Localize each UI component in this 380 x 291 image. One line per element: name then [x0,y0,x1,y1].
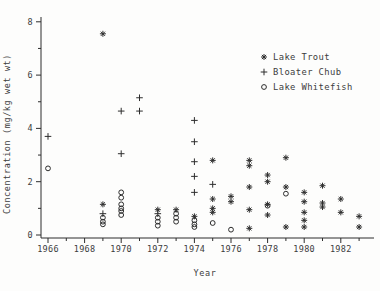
data-point-lake-trout [246,207,252,213]
data-point-lake-trout [356,213,362,219]
x-axis-tick-label: 1970 [110,244,132,254]
data-point-lake-trout [283,155,289,161]
data-point-bloater-chub [118,108,125,115]
data-point-lake-whitefish [119,195,124,200]
data-point-lake-trout [320,183,326,189]
data-point-lake-trout [338,196,344,202]
x-axis-tick-label: 1982 [330,244,352,254]
y-axis-tick-label: 8 [28,17,33,27]
data-point-lake-trout [301,189,307,195]
data-point-lake-trout [265,172,271,178]
data-point-lake-trout [228,199,234,205]
legend-label: Lake Whitefish [273,82,353,92]
y-axis-tick-label: 6 [28,70,33,80]
data-point-lake-trout [100,201,106,207]
x-axis-tick-label: 1966 [37,244,59,254]
data-point-lake-trout [283,224,289,230]
legend-label: Bloater Chub [273,67,341,77]
data-point-lake-whitefish [229,227,234,232]
data-point-lake-trout [301,199,307,205]
legend-label: Lake Trout [273,52,330,62]
asterisk-legend-icon [261,54,267,60]
data-point-lake-trout [265,212,271,218]
x-axis-tick-label: 1968 [74,244,96,254]
data-point-lake-trout [301,209,307,215]
data-point-lake-trout [301,217,307,223]
legend-entry: Bloater Chub [261,67,342,77]
chart-canvas: 1966196819701972197419761978198019820246… [0,0,380,291]
y-axis-tick-label: 4 [28,123,33,133]
scatter-plot-figure: 1966196819701972197419761978198019820246… [0,0,380,291]
data-point-lake-trout [320,204,326,210]
x-axis-tick-label: 1978 [257,244,279,254]
data-point-lake-trout [301,224,307,230]
data-point-lake-whitefish [46,166,51,171]
data-point-lake-trout [283,184,289,190]
x-axis-tick-label: 1974 [184,244,206,254]
legend: Lake TroutBloater ChubLake Whitefish [261,52,353,92]
data-point-bloater-chub [136,108,143,115]
y-axis-tick-label: 0 [28,230,33,240]
x-axis-tick-label: 1976 [220,244,242,254]
data-point-lake-trout [210,196,216,202]
y-axis-title: Concentration (mg/kg wet wt) [2,54,12,214]
legend-entry: Lake Whitefish [262,82,353,92]
x-axis-title: Year [194,268,217,278]
legend-entry: Lake Trout [261,52,330,62]
data-point-lake-trout [246,163,252,169]
data-point-lake-trout [246,225,252,231]
data-point-bloater-chub [118,150,125,157]
data-point-lake-whitefish [210,221,215,226]
x-axis-tick-label: 1972 [147,244,169,254]
data-point-lake-trout [228,193,234,199]
data-point-lake-trout [246,184,252,190]
data-point-lake-trout [246,157,252,163]
data-point-lake-trout [210,157,216,163]
data-point-lake-trout [265,179,271,185]
data-point-bloater-chub [191,189,198,196]
data-point-bloater-chub [209,181,216,188]
x-axis-tick-label: 1980 [293,244,315,254]
plus-legend-icon [261,69,268,76]
y-axis-tick-label: 2 [28,177,33,187]
circle-legend-icon [262,85,267,90]
data-point-bloater-chub [191,138,198,145]
data-point-lake-whitefish [284,191,289,196]
data-point-bloater-chub [45,133,52,140]
data-point-lake-trout [338,209,344,215]
data-point-lake-trout [100,31,106,37]
data-point-bloater-chub [191,158,198,165]
data-point-lake-trout [356,224,362,230]
data-point-bloater-chub [136,94,143,101]
data-point-bloater-chub [191,173,198,180]
data-point-bloater-chub [191,117,198,124]
data-point-lake-whitefish [119,190,124,195]
